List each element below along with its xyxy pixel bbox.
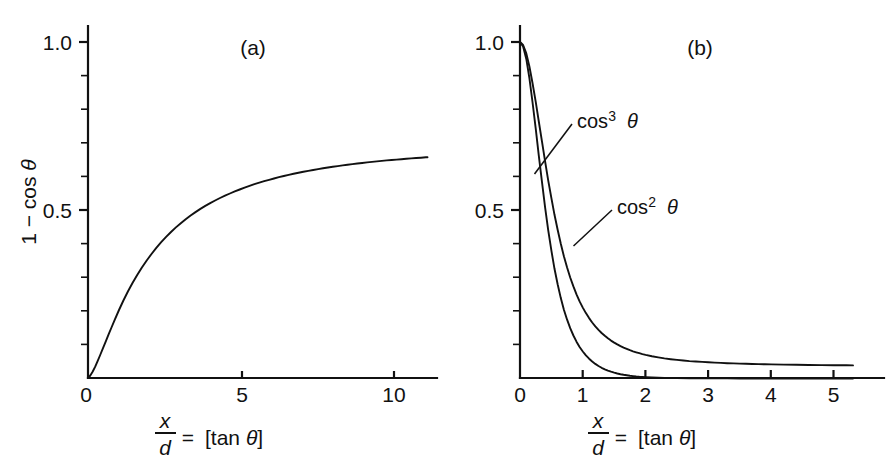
- y-tick-label-b-05: 0.5: [475, 199, 504, 222]
- x-axis-title-b: x d = [tan θ]: [588, 409, 696, 459]
- y-tick-label-a-1: 1.0: [43, 31, 72, 54]
- annotation-cos-squared-exponent: 2: [648, 194, 656, 210]
- figure-container: 1.0 0.5 0 5 10 (a) 1 − cos θ x d = [t: [0, 0, 889, 466]
- x-tick-label-a-5: 5: [236, 383, 248, 406]
- panel-b: cos3 θ cos2 θ 1.0 0.5 0 1 2 3 4 5 (b) x …: [444, 0, 889, 466]
- annotation-cos-squared-theta-symbol: θ: [667, 196, 678, 218]
- y-axis-title-a-prefix: 1 − cos: [17, 171, 40, 245]
- x-axis-title-a-bracket-close: ]: [257, 426, 263, 449]
- panel-b-plot: cos3 θ cos2 θ 1.0 0.5 0 1 2 3 4 5 (b) x …: [444, 0, 889, 466]
- annotation-cos-cubed-base: cos: [577, 110, 608, 132]
- x-tick-label-b-1: 1: [577, 383, 589, 406]
- y-tick-label-b-1: 1.0: [475, 31, 504, 54]
- annotation-cos-cubed-exponent: 3: [608, 108, 616, 124]
- x-axis-title-a-theta: θ: [246, 426, 258, 449]
- x-axis-title-a-numerator: x: [159, 409, 172, 432]
- x-tick-label-b-4: 4: [765, 383, 777, 406]
- curve-cos-cubed-theta: [520, 42, 853, 379]
- x-axis-title-b-expression: [tan θ]: [638, 426, 696, 449]
- panel-a: 1.0 0.5 0 5 10 (a) 1 − cos θ x d = [t: [0, 0, 445, 466]
- x-axis-title-a: x d = [tan θ]: [155, 409, 263, 459]
- x-tick-label-a-10: 10: [382, 383, 405, 406]
- x-axis-title-a-denominator: d: [159, 436, 172, 459]
- x-axis-title-b-theta: θ: [679, 426, 691, 449]
- curve-cos-squared-theta: [520, 42, 853, 365]
- x-axis-title-a-equals: =: [182, 426, 194, 449]
- x-axis-title-a-fn: tan: [211, 426, 246, 449]
- x-tick-label-b-0: 0: [514, 383, 526, 406]
- y-axis-title-a: 1 − cos θ: [17, 159, 40, 245]
- x-tick-label-b-3: 3: [702, 383, 714, 406]
- svg-text:1 − cos θ: 1 − cos θ: [17, 159, 40, 245]
- x-axis-title-b-fn: tan: [644, 426, 679, 449]
- x-axis-title-a-expression: [tan θ]: [205, 426, 263, 449]
- panel-label-b: (b): [687, 36, 713, 59]
- panel-a-plot: 1.0 0.5 0 5 10 (a) 1 − cos θ x d = [t: [0, 0, 445, 466]
- y-tick-label-a-0: 0: [80, 383, 92, 406]
- y-axis-title-a-theta: θ: [17, 159, 40, 171]
- annotation-cos-squared-base: cos: [617, 196, 648, 218]
- annotation-cos-cubed-theta-symbol: θ: [627, 110, 638, 132]
- annotation-cos-squared-theta: cos2 θ: [617, 194, 678, 218]
- y-tick-label-a-05: 0.5: [43, 199, 72, 222]
- x-axis-title-b-denominator: d: [592, 436, 605, 459]
- panel-label-a: (a): [240, 36, 266, 59]
- x-axis-title-b-bracket-close: ]: [690, 426, 696, 449]
- x-axis-title-b-equals: =: [615, 426, 627, 449]
- annotation-cos-cubed-theta: cos3 θ: [577, 108, 638, 132]
- curve-one-minus-cos-theta: [88, 157, 428, 378]
- leader-line-cos-squared: [574, 210, 613, 246]
- x-axis-title-b-numerator: x: [592, 409, 605, 432]
- x-tick-label-b-5: 5: [828, 383, 840, 406]
- x-tick-label-b-2: 2: [640, 383, 652, 406]
